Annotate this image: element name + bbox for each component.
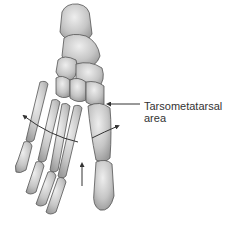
cuneiform-bone-1	[56, 76, 70, 97]
cuneiform-bone-2	[70, 78, 86, 101]
phalanx-5	[15, 142, 32, 173]
phalanx-1	[94, 160, 114, 210]
foot-skeleton-diagram	[0, 0, 228, 228]
tarsal-bones	[56, 4, 104, 106]
annotation-label-line2: area	[144, 112, 166, 124]
annotation-label-line1: Tarsometatarsal	[144, 100, 222, 112]
cuneiform-bone-3	[86, 82, 104, 106]
metatarsal-1	[88, 103, 111, 161]
